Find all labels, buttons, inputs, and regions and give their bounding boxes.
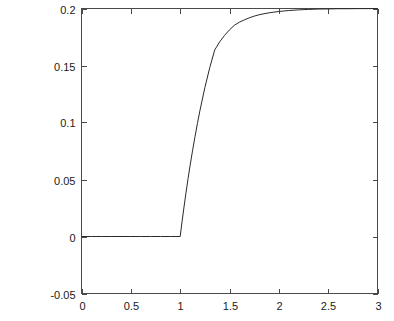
x-tick-label: 0 (79, 300, 85, 312)
y-tick-label: 0 (69, 232, 75, 244)
x-tick-label: 3 (375, 300, 381, 312)
plot-canvas: 00.511.522.53 -0.0500.050.10.150.2 (0, 0, 394, 321)
y-tick-label: 0.05 (54, 175, 75, 187)
figure-background (0, 0, 394, 321)
y-tick-label: 0.15 (54, 61, 75, 73)
x-tick-label: 2.5 (321, 300, 336, 312)
x-tick-label: 2 (276, 300, 282, 312)
x-tick-label: 1 (177, 300, 183, 312)
y-tick-label: 0.1 (60, 117, 75, 129)
x-tick-label: 1.5 (223, 300, 238, 312)
y-tick-label: -0.05 (50, 289, 75, 301)
x-tick-label: 0.5 (124, 300, 139, 312)
chart-screenshot: 00.511.522.53 -0.0500.050.10.150.2 (0, 0, 394, 321)
y-tick-label: 0.2 (60, 4, 75, 16)
